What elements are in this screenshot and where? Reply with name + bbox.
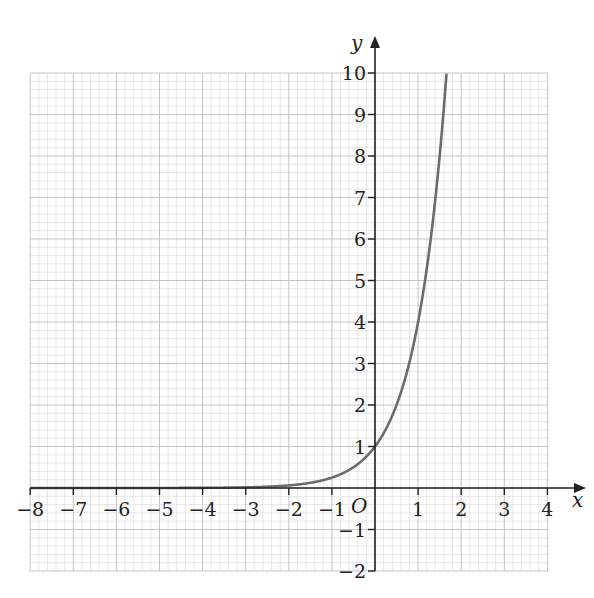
y-tick-label: 1 (354, 436, 366, 458)
y-tick-label: 8 (354, 145, 366, 167)
y-tick-label: 3 (354, 353, 366, 375)
x-tick-label: 3 (498, 498, 510, 520)
x-tick-label: 2 (455, 498, 467, 520)
y-tick-label: −1 (338, 519, 366, 541)
x-tick-label: −4 (189, 498, 217, 520)
x-tick-label: 4 (541, 498, 553, 520)
x-tick-label: −7 (59, 498, 87, 520)
x-tick-label: −3 (232, 498, 260, 520)
y-tick-label: 9 (354, 104, 366, 126)
y-tick-label: −2 (338, 560, 366, 582)
y-tick-label: 7 (354, 187, 366, 209)
origin-label: O (351, 494, 367, 518)
y-tick-label: 6 (354, 228, 366, 250)
graph: −8−7−6−5−4−3−2−11234−2−112345678910 x y … (0, 0, 594, 598)
x-tick-label: −6 (102, 498, 130, 520)
x-tick-label: −5 (145, 498, 173, 520)
x-tick-label: −1 (318, 498, 346, 520)
y-tick-label: 5 (354, 270, 366, 292)
axes (30, 36, 586, 571)
y-tick-label: 4 (354, 311, 366, 333)
y-tick-label: 10 (342, 62, 366, 84)
x-tick-label: −2 (275, 498, 303, 520)
x-tick-label: −8 (16, 498, 44, 520)
x-axis-label: x (572, 488, 583, 512)
y-axis-arrow-icon (370, 36, 380, 48)
x-tick-label: 1 (412, 498, 424, 520)
y-tick-label: 2 (354, 394, 366, 416)
y-axis-label: y (350, 31, 363, 55)
